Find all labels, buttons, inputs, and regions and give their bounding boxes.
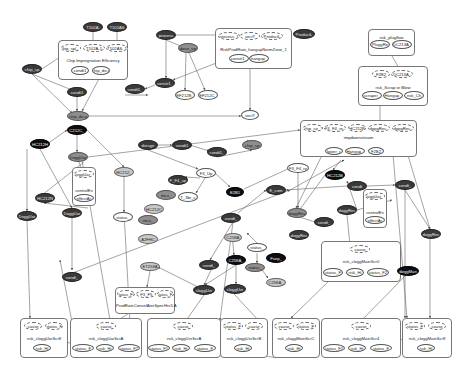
cluster-node[interactable]: status_F2 [118,344,140,352]
graph-node[interactable]: C258A_ [266,278,286,287]
graph-node[interactable]: T_3br_c [178,192,198,202]
cluster-node[interactable]: doggRes_ [392,124,414,132]
cluster-node[interactable]: PluggRe [370,40,390,49]
cluster-node[interactable]: status_F1 [117,290,135,298]
graph-node[interactable]: EF212B_ [175,90,195,100]
graph-node[interactable]: C258A [224,233,242,242]
graph-node[interactable]: T102AS [107,22,127,32]
cluster-node[interactable]: DoggUar_1 [365,192,385,200]
cluster-node[interactable]: F2B2 [368,147,384,155]
cluster-node[interactable]: doggRes_ [368,124,390,132]
cluster-node[interactable]: condt1 [71,66,89,75]
graph-node[interactable]: process [156,30,176,40]
cluster-node[interactable]: status_F [45,322,63,330]
graph-node[interactable]: condt_ [199,260,219,270]
graph-node[interactable]: doggMan [397,266,419,276]
cluster-node[interactable]: status_F [296,322,316,330]
cluster-node[interactable]: status_F1 [148,344,170,352]
cluster-node[interactable]: cause [350,245,370,253]
graph-node[interactable]: status_ [247,243,267,252]
cluster-node[interactable]: ProductL [261,32,283,40]
cluster-node[interactable]: cause [351,322,371,330]
graph-node[interactable]: ProductL [293,29,315,39]
graph-node[interactable]: condt1 [172,140,192,150]
graph-node[interactable]: chip_de-a [67,111,89,121]
graph-node[interactable]: DoggUar [68,152,88,162]
graph-node[interactable]: F3_Up [196,168,216,178]
cluster-node[interactable]: constr1_ [229,54,249,63]
graph-node[interactable]: constr1_ [155,78,175,88]
cluster-node[interactable]: risk_Hi [33,344,51,352]
graph-node[interactable]: EF212C_ [198,90,218,100]
cluster-node[interactable]: DC213A_ [391,70,413,78]
graph-node[interactable]: chip_sp [22,64,42,74]
cluster-node[interactable]: T102AS_1 [106,44,128,52]
graph-node[interactable]: C212C_ [67,125,87,135]
graph-node[interactable]: HC212_ [114,167,134,177]
cluster-node[interactable]: status_F [72,344,94,352]
cluster-node[interactable]: T102A-1 [83,44,105,52]
graph-node[interactable]: E2B1 [226,187,244,197]
graph-node[interactable]: HC212C [144,204,164,214]
graph-node[interactable]: HC212H [30,139,50,149]
cluster-node[interactable]: status_F [405,322,425,330]
graph-node[interactable]: mcu_ [138,215,158,225]
graph-node[interactable]: cloggUvr [224,284,246,294]
graph-node[interactable]: DoggUar [17,211,37,221]
graph-node[interactable]: condt_ [62,272,82,282]
cluster-node[interactable]: chip_de-a [92,66,110,75]
cluster-node[interactable]: risk_Hi [96,344,114,352]
cluster-node[interactable]: risk_Hi [172,344,190,352]
cluster-node[interactable]: risk_Hi [285,344,303,352]
cluster-node[interactable]: F3_F4_re_ [324,124,346,132]
cluster-node[interactable]: cause [245,322,263,330]
cluster-node[interactable]: status_F1 [157,290,174,298]
cluster-node[interactable]: chip_sp(...) [61,44,81,52]
graph-node[interactable]: doggRes [337,205,357,215]
graph-node[interactable]: condt_ [395,180,415,190]
graph-node[interactable]: sectT [241,110,259,120]
graph-node[interactable]: cloggUvr [193,285,215,295]
cluster-node[interactable]: status_F2 [323,344,345,352]
cluster-node[interactable]: A_F3_F5_1 [136,290,156,298]
cluster-node[interactable]: risk_Ch [404,91,424,100]
graph-node[interactable]: condt [347,181,367,191]
cluster-node[interactable]: status_F [223,322,243,330]
cluster-node[interactable]: hangup_ [249,54,269,63]
graph-node[interactable]: T102A- [83,22,103,32]
graph-node[interactable]: condt1_ [207,147,227,157]
cluster-node[interactable]: risk_Hi [234,344,252,352]
graph-node[interactable]: C258A_ [226,255,246,265]
cluster-node[interactable]: Hangup_ [383,91,403,100]
cluster-node[interactable]: risk_Hi [348,344,366,352]
cluster-node[interactable]: process_1 [218,32,240,40]
cluster-node[interactable]: DC213A_ [392,40,412,49]
graph-node[interactable]: chip_sp [242,140,262,150]
graph-node[interactable]: status_ [245,263,265,272]
cluster-node[interactable]: cause [428,322,446,330]
graph-node[interactable]: F_F4_up [168,175,188,185]
cluster-node[interactable]: chip_co_1 [303,124,323,132]
graph-node[interactable]: dose_up [178,43,198,53]
graph-node[interactable]: A2FHC [138,234,158,244]
graph-node[interactable]: condt1 [67,87,87,97]
cluster-node[interactable]: cause [96,322,116,330]
cluster-node[interactable]: status_F [194,344,216,352]
cluster-node[interactable]: F2B2 [372,70,390,78]
graph-node[interactable]: ET258A [140,262,160,271]
graph-node[interactable]: status_ [113,212,133,222]
graph-node[interactable]: doggRes [421,229,441,239]
cluster-node[interactable]: effectAs [74,194,94,202]
cluster-node[interactable]: status_F [370,344,392,352]
graph-node[interactable]: HC212N [35,193,55,203]
cluster-node[interactable]: scraper_ [362,91,382,100]
cluster-node[interactable]: risk_Hi [346,268,364,277]
graph-node[interactable]: doggRes [289,230,309,240]
cluster-node[interactable]: DoggUar_1 [74,170,94,178]
cluster-node[interactable]: cause [24,322,42,330]
graph-node[interactable]: condt_ [221,213,241,223]
cluster-node[interactable]: cause [173,322,193,330]
graph-node[interactable]: condt1_ [125,84,145,94]
cluster-node[interactable]: cause [274,322,294,330]
graph-node[interactable]: doggRes [287,208,307,218]
